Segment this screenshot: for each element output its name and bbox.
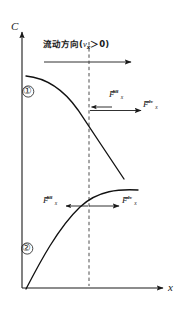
x-axis-label: x — [168, 282, 173, 293]
flow-direction-text-suffix: ) — [105, 39, 109, 49]
curve-2-marker: ② — [22, 243, 31, 253]
upper-advective-flux-superscript: adv — [146, 99, 153, 104]
lower-diffusive-flux-subscript: x — [55, 200, 57, 206]
upper-advective-flux-label: Fadvx — [143, 100, 158, 109]
concentration-flux-diagram: C x 流动方向(vx＞0) ① ② Fdiffx Fadvx Fdiffx F… — [0, 0, 179, 313]
upper-diffusive-flux-superscript: diff — [112, 89, 119, 94]
flow-direction-text-prefix: 流动方向( — [43, 39, 83, 49]
y-axis-label: C — [11, 21, 18, 32]
lower-advective-flux-subscript: x — [134, 200, 136, 206]
lower-diffusive-flux-superscript: diff — [46, 195, 53, 200]
flow-velocity-subscript: x — [87, 44, 91, 50]
lower-diffusive-flux-label: Fdiffx — [43, 196, 58, 205]
upper-diffusive-flux-label: Fdiffx — [109, 90, 124, 99]
upper-diffusive-flux-subscript: x — [121, 94, 123, 100]
curve-1-marker: ① — [23, 86, 32, 96]
flow-relation-symbol: ＞0 — [90, 39, 105, 49]
flow-direction-label: 流动方向(vx＞0) — [43, 40, 109, 49]
upper-advective-flux-subscript: x — [155, 104, 157, 110]
lower-advective-flux-label: Fadvx — [122, 196, 137, 205]
lower-advective-flux-superscript: adv — [125, 195, 132, 200]
